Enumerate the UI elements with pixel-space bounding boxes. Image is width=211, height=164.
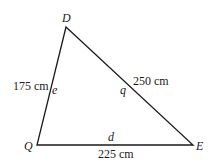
length-de-label: 250 cm	[133, 74, 169, 88]
side-e-label: e	[52, 83, 58, 97]
length-qe-label: 225 cm	[98, 147, 134, 161]
side-q-label: q	[120, 83, 126, 97]
side-d-label: d	[108, 130, 115, 144]
triangle-diagram: D Q E e q d 175 cm 250 cm 225 cm	[0, 0, 211, 164]
vertex-e-label: E	[195, 139, 204, 153]
vertex-q-label: Q	[24, 139, 33, 153]
length-dq-label: 175 cm	[13, 79, 49, 93]
triangle-dqe	[37, 27, 193, 145]
vertex-d-label: D	[61, 11, 71, 25]
